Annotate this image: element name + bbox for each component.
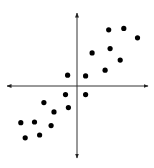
- data-point: [83, 92, 88, 97]
- data-point: [49, 123, 54, 128]
- data-point: [63, 92, 68, 97]
- data-point: [121, 26, 126, 31]
- data-point: [37, 132, 42, 137]
- data-point: [18, 120, 23, 125]
- data-point: [41, 100, 46, 105]
- data-point: [66, 105, 71, 110]
- data-point: [108, 46, 113, 51]
- data-point: [51, 109, 56, 114]
- data-point: [32, 119, 37, 124]
- data-point: [135, 35, 140, 40]
- data-point: [106, 27, 111, 32]
- data-point: [83, 73, 88, 78]
- data-points: [18, 26, 140, 141]
- data-point: [90, 50, 95, 55]
- scatter-plot: [0, 0, 154, 168]
- data-point: [103, 68, 108, 73]
- data-point: [23, 135, 28, 140]
- data-point: [65, 73, 70, 78]
- data-point: [118, 58, 123, 63]
